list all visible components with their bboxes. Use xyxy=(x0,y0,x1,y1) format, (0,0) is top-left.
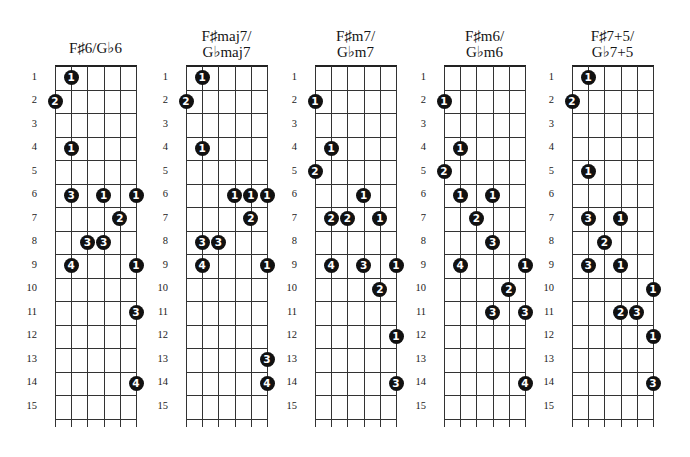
finger-dot: 3 xyxy=(80,235,95,250)
fret-number: 5 xyxy=(404,165,426,176)
string-line xyxy=(460,66,461,427)
fret-line xyxy=(55,278,137,279)
fret-number: 15 xyxy=(15,400,37,411)
finger-dot: 4 xyxy=(324,258,339,273)
finger-dot: 1 xyxy=(372,211,387,226)
fret-number: 1 xyxy=(532,71,554,82)
finger-dot: 3 xyxy=(518,305,533,320)
finger-dot: 1 xyxy=(227,188,242,203)
fret-line xyxy=(55,113,137,114)
fret-line xyxy=(572,184,654,185)
fret-number: 8 xyxy=(404,235,426,246)
fret-number: 7 xyxy=(532,212,554,223)
finger-dot: 4 xyxy=(453,258,468,273)
fret-number: 11 xyxy=(275,306,297,317)
string-line xyxy=(315,66,316,427)
fret-line xyxy=(55,372,137,373)
fret-number: 9 xyxy=(275,259,297,270)
finger-dot: 1 xyxy=(613,258,628,273)
string-line xyxy=(380,66,381,427)
fret-number: 14 xyxy=(275,376,297,387)
fret-number: 10 xyxy=(404,282,426,293)
fret-number: 7 xyxy=(404,212,426,223)
finger-dot: 3 xyxy=(195,235,210,250)
fret-line xyxy=(315,90,397,91)
chord-title: F♯7+5/G♭7+5 xyxy=(548,28,678,60)
fret-line xyxy=(186,137,268,138)
finger-dot: 2 xyxy=(324,211,339,226)
chord-title-line: F♯6/G♭6 xyxy=(31,40,161,56)
fret-number: 10 xyxy=(15,282,37,293)
fret-number: 7 xyxy=(15,212,37,223)
fret-line xyxy=(444,113,526,114)
fret-line xyxy=(315,301,397,302)
fret-number: 15 xyxy=(404,400,426,411)
finger-dot: 4 xyxy=(195,258,210,273)
fret-number: 2 xyxy=(532,94,554,105)
string-line xyxy=(331,66,332,427)
finger-dot: 1 xyxy=(260,258,275,273)
fret-number: 11 xyxy=(532,306,554,317)
finger-dot: 1 xyxy=(389,258,404,273)
string-line xyxy=(235,66,236,427)
fret-line xyxy=(186,372,268,373)
fret-line xyxy=(444,325,526,326)
finger-dot: 1 xyxy=(437,94,452,109)
finger-dot: 3 xyxy=(96,235,111,250)
fret-number: 13 xyxy=(532,353,554,364)
fret-number: 14 xyxy=(404,376,426,387)
string-line xyxy=(525,66,526,427)
fret-number: 11 xyxy=(146,306,168,317)
fret-number: 5 xyxy=(532,165,554,176)
fret-line xyxy=(55,301,137,302)
chord-diagram: F♯m6/G♭m61234567891011121314151121123412… xyxy=(419,0,549,457)
chord-title-line: F♯maj7/ xyxy=(162,28,292,44)
fret-number: 8 xyxy=(532,235,554,246)
fret-line xyxy=(55,419,137,420)
fret-number: 6 xyxy=(146,188,168,199)
fretboard-grid: 1234567891011121314151121123412334 xyxy=(444,66,525,419)
fret-line xyxy=(315,207,397,208)
fret-number: 5 xyxy=(15,165,37,176)
chord-diagram: F♯6/G♭6123456789101112131415121311233413… xyxy=(30,0,160,457)
fret-number: 14 xyxy=(146,376,168,387)
fret-line xyxy=(186,254,268,255)
fret-line xyxy=(572,160,654,161)
fret-line xyxy=(186,419,268,420)
chord-title: F♯m6/G♭m6 xyxy=(420,28,550,60)
string-line xyxy=(186,66,187,427)
finger-dot: 3 xyxy=(646,376,661,391)
fret-line xyxy=(186,348,268,349)
string-line xyxy=(396,66,397,427)
finger-dot: 2 xyxy=(565,94,580,109)
fret-number: 6 xyxy=(15,188,37,199)
fret-number: 8 xyxy=(146,235,168,246)
chord-diagram: F♯m7/G♭m71234567891011121314151121221431… xyxy=(290,0,420,457)
string-line xyxy=(120,66,121,427)
string-line xyxy=(476,66,477,427)
fret-number: 12 xyxy=(275,329,297,340)
fret-line xyxy=(186,301,268,302)
fret-line xyxy=(572,137,654,138)
fret-line xyxy=(315,348,397,349)
fret-line xyxy=(444,301,526,302)
fret-line xyxy=(186,113,268,114)
finger-dot: 2 xyxy=(469,211,484,226)
fret-line xyxy=(55,137,137,138)
fret-number: 7 xyxy=(275,212,297,223)
fret-line xyxy=(444,348,526,349)
finger-dot: 3 xyxy=(485,305,500,320)
string-line xyxy=(637,66,638,427)
fret-number: 13 xyxy=(146,353,168,364)
finger-dot: 1 xyxy=(195,70,210,85)
chord-title-line: G♭m6 xyxy=(420,44,550,60)
finger-dot: 2 xyxy=(372,282,387,297)
fret-line xyxy=(444,207,526,208)
fret-number: 3 xyxy=(404,118,426,129)
finger-dot: 2 xyxy=(243,211,258,226)
fret-line xyxy=(55,254,137,255)
chord-title-line: G♭7+5 xyxy=(548,44,678,60)
fret-line xyxy=(572,301,654,302)
finger-dot: 1 xyxy=(308,94,323,109)
finger-dot: 2 xyxy=(501,282,516,297)
